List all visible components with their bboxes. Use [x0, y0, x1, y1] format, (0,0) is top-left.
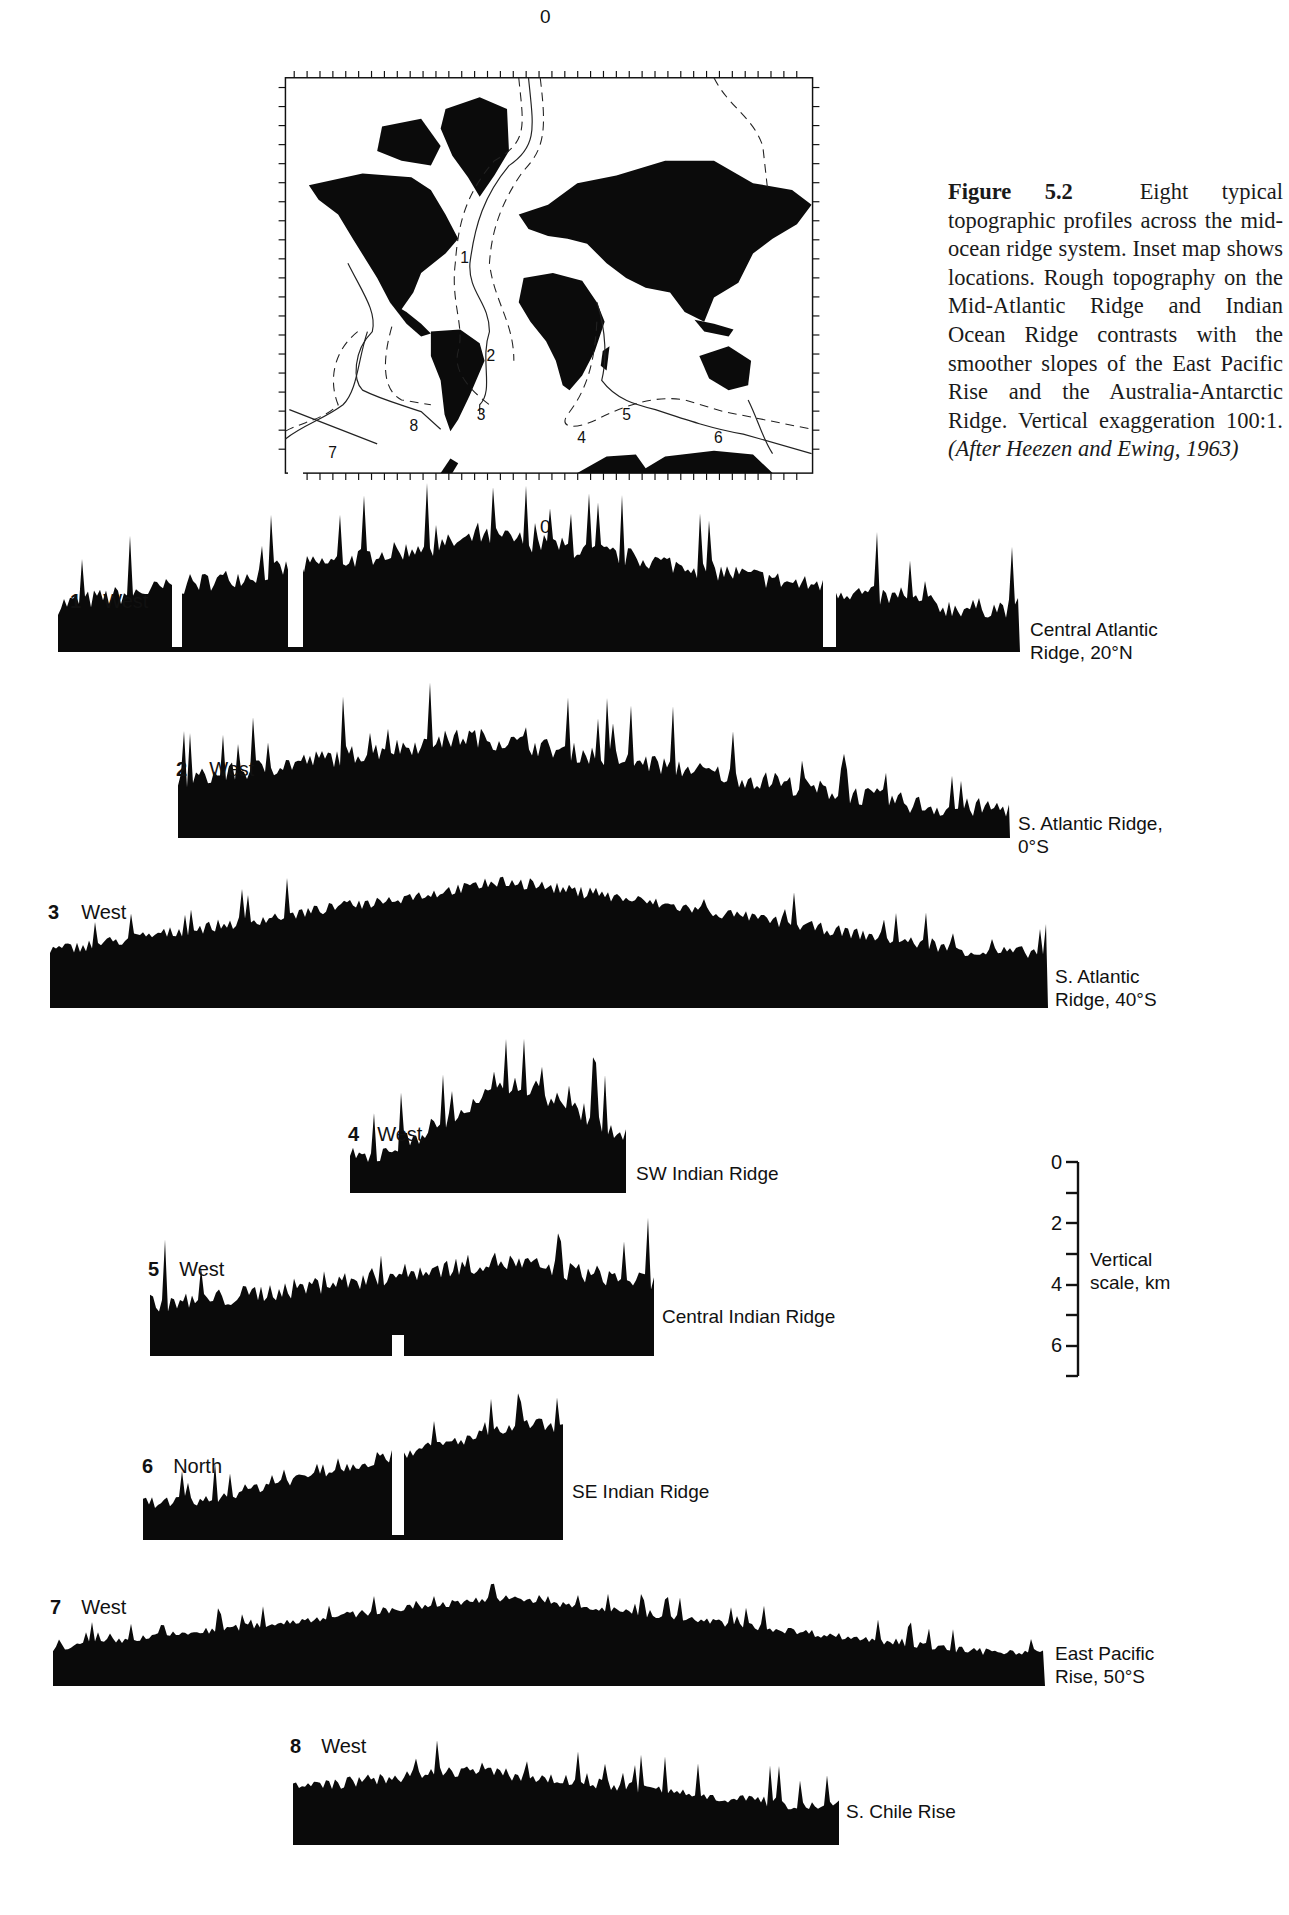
profile-4-silhouette: [350, 1039, 626, 1193]
profile-5-name: Central Indian Ridge: [662, 1305, 835, 1328]
scale-title: Vertical scale, km: [1090, 1248, 1170, 1294]
profile-8-silhouette: [293, 1740, 839, 1845]
profile-3-label: 3West: [48, 901, 126, 924]
profile-6-name: SE Indian Ridge: [572, 1480, 709, 1503]
profile-2-label: 2West: [176, 758, 254, 781]
scale-tick-6: 6: [1051, 1334, 1062, 1357]
scale-tick-0: 0: [1051, 1151, 1062, 1174]
profile-4-name: SW Indian Ridge: [636, 1162, 779, 1185]
profile-3-name: S. AtlanticRidge, 40°S: [1055, 965, 1157, 1011]
profile-8-label: 8West: [290, 1735, 366, 1758]
profile-2-silhouette: [178, 682, 1010, 838]
profile-3-silhouette: [50, 877, 1048, 1008]
profiles-svg: [0, 0, 1289, 1915]
profile-7-name: East PacificRise, 50°S: [1055, 1642, 1154, 1688]
profile-1-name: Central AtlanticRidge, 20°N: [1030, 618, 1158, 664]
profile-6-label: 6North: [142, 1455, 222, 1478]
scale-tick-2: 2: [1051, 1212, 1062, 1235]
profile-7-label: 7West: [50, 1596, 126, 1619]
scale-tick-4: 4: [1051, 1273, 1062, 1296]
profile-5-label: 5West: [148, 1258, 224, 1281]
scale-bar-line: [1060, 1160, 1080, 1378]
profile-1-label: 1West: [70, 590, 148, 613]
profile-4-label: 4West: [348, 1123, 422, 1146]
profile-8-name: S. Chile Rise: [846, 1800, 956, 1823]
profile-2-name: S. Atlantic Ridge,0°S: [1018, 812, 1163, 858]
profile-1-silhouette: [58, 483, 1020, 652]
profile-7-silhouette: [53, 1584, 1045, 1686]
